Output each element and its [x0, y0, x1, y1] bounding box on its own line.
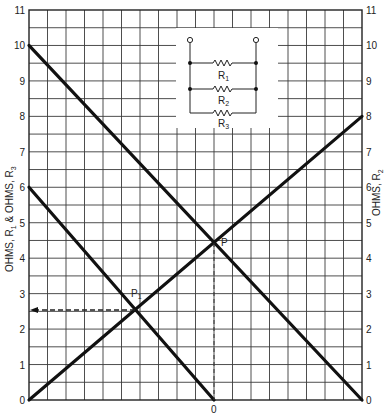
left-tick-label: 7 [19, 147, 25, 158]
left-tick-label: 8 [19, 111, 25, 122]
left-tick-label: 10 [14, 40, 26, 51]
right-tick-label: 10 [366, 40, 378, 51]
right-tick-label: 3 [366, 289, 372, 300]
chart: 01234567891011 01234567891011 OHMS, R1 &… [0, 0, 386, 419]
right-tick-label: 9 [366, 76, 372, 87]
left-tick-label: 11 [15, 5, 26, 16]
terminal-left-icon [187, 37, 192, 42]
right-tick-label: 2 [366, 324, 372, 335]
right-tick-label: 0 [366, 395, 372, 406]
right-tick-label: 11 [366, 5, 377, 16]
left-axis-ticks: 01234567891011 [14, 5, 26, 406]
left-tick-label: 4 [19, 253, 25, 264]
left-tick-label: 1 [19, 360, 25, 371]
left-tick-label: 9 [19, 76, 25, 87]
left-tick-label: 6 [19, 182, 25, 193]
right-tick-label: 8 [366, 111, 372, 122]
left-tick-label: 0 [19, 395, 25, 406]
right-axis-title: OHMS, R2 [371, 169, 384, 216]
left-tick-label: 3 [19, 289, 25, 300]
circuit-inset: R1 R2 R3 [176, 28, 278, 130]
right-tick-label: 5 [366, 218, 372, 229]
terminal-right-icon [253, 37, 258, 42]
bottom-zero-label: 0 [211, 404, 217, 415]
left-axis-title: OHMS, R1 & OHMS, R3 [4, 166, 17, 272]
left-tick-label: 2 [19, 324, 25, 335]
point-p-label: P [221, 237, 228, 248]
arrow-left-icon [30, 307, 38, 313]
right-tick-label: 4 [366, 253, 372, 264]
left-tick-label: 5 [19, 218, 25, 229]
right-tick-label: 7 [366, 147, 372, 158]
right-tick-label: 1 [366, 360, 372, 371]
